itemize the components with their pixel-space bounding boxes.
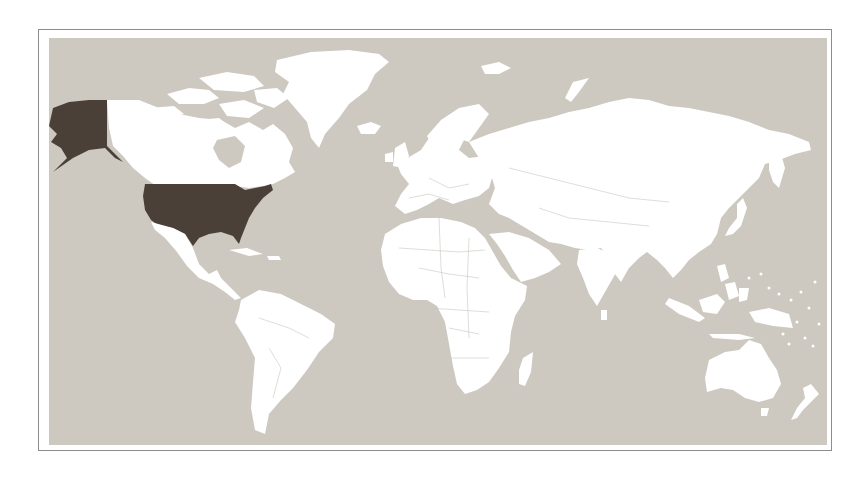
- world-map-svg: [49, 38, 827, 445]
- sri-lanka: [601, 310, 607, 320]
- ireland: [385, 152, 393, 162]
- south-america: [235, 290, 335, 434]
- usa-contiguous-highlight: [143, 184, 273, 246]
- pacific-islands: [748, 273, 821, 348]
- tasmania: [761, 408, 769, 416]
- new-zealand: [791, 384, 819, 420]
- southeast-asia-islands: [665, 264, 793, 340]
- novaya-zemlya: [565, 78, 589, 102]
- canada: [107, 100, 295, 188]
- world-map: [49, 38, 827, 445]
- australia: [705, 340, 781, 402]
- madagascar: [519, 352, 533, 386]
- svalbard: [481, 62, 511, 74]
- cuba: [229, 248, 263, 256]
- iceland: [357, 122, 381, 134]
- kamchatka: [769, 154, 785, 188]
- hispaniola: [267, 256, 281, 260]
